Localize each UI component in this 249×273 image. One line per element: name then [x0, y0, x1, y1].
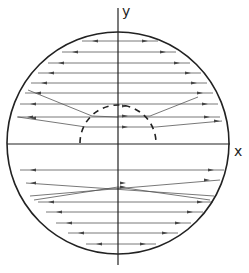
- arrowhead-icon: [30, 169, 36, 172]
- ray-diagram: y x: [0, 0, 249, 273]
- arrowhead-icon: [92, 40, 98, 43]
- arrowhead-icon: [78, 232, 84, 235]
- arrowhead-icon: [58, 62, 64, 65]
- arrowhead-icon: [208, 169, 214, 172]
- y-axis-label: y: [122, 4, 130, 18]
- arrowhead-icon: [197, 201, 203, 204]
- rays-group: [17, 40, 224, 246]
- bent-ray: [118, 121, 222, 127]
- ray-line: [118, 187, 210, 200]
- arrowhead-icon: [72, 51, 78, 54]
- arrowhead-icon: [96, 243, 102, 246]
- arrowhead-icon: [187, 211, 193, 214]
- x-axis-label: x: [234, 144, 242, 158]
- arrowhead-icon: [175, 222, 181, 225]
- arrowhead-icon: [174, 62, 180, 65]
- arrowhead-icon: [214, 120, 220, 123]
- arrowhead-icon: [41, 82, 47, 85]
- arrowhead-icon: [160, 51, 166, 54]
- arrowhead-icon: [120, 182, 126, 185]
- arrowhead-icon: [30, 182, 36, 185]
- arrowhead-icon: [48, 201, 54, 204]
- arrowhead-icon: [197, 92, 203, 95]
- arrowhead-icon: [202, 103, 208, 106]
- arrowhead-icon: [30, 103, 36, 106]
- arrowhead-icon: [66, 222, 72, 225]
- arrowhead-icon: [204, 116, 210, 119]
- arrowhead-icon: [185, 72, 191, 75]
- arrowhead-icon: [48, 72, 54, 75]
- arrowhead-icon: [122, 126, 128, 129]
- arrowhead-icon: [162, 232, 168, 235]
- arrowhead-icon: [56, 211, 62, 214]
- arrowhead-icon: [191, 82, 197, 85]
- arrowhead-icon: [142, 40, 148, 43]
- arrowhead-icon: [140, 243, 146, 246]
- bent-ray: [28, 90, 118, 117]
- ray-diagram-canvas: [0, 0, 249, 273]
- ray-line: [34, 187, 118, 200]
